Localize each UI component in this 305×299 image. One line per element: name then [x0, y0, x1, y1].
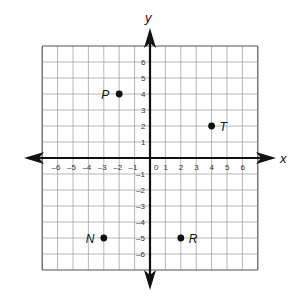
y-tick-label: 4: [141, 90, 146, 99]
y-tick-label: 6: [141, 58, 146, 67]
coordinate-plane: –6–5–4–3–2–10123456–6–5–4–3–2–1123456 PT…: [0, 0, 305, 299]
x-tick-label: 3: [194, 163, 199, 172]
y-tick-label: –1: [136, 170, 145, 179]
y-tick-label: –6: [136, 250, 145, 259]
point-marker: [116, 91, 123, 98]
y-tick-label: 5: [141, 74, 146, 83]
y-tick-label: –2: [136, 186, 145, 195]
point-marker: [100, 235, 107, 242]
x-tick-label: 2: [179, 163, 184, 172]
y-axis-label: y: [144, 10, 153, 25]
x-tick-label: 1: [163, 163, 168, 172]
x-tick-label: –5: [67, 163, 76, 172]
x-tick-label: 5: [225, 163, 230, 172]
x-tick-label: –6: [52, 163, 61, 172]
point-marker: [208, 123, 215, 130]
x-tick-label: 6: [240, 163, 245, 172]
x-tick-label: 4: [210, 163, 215, 172]
y-tick-label: 3: [141, 106, 146, 115]
x-tick-label: –3: [98, 163, 107, 172]
axes: [24, 28, 276, 290]
x-tick-label: –4: [82, 163, 91, 172]
y-tick-label: –4: [136, 218, 145, 227]
y-tick-label: –3: [136, 202, 145, 211]
y-tick-label: 2: [141, 122, 146, 131]
point-marker: [177, 235, 184, 242]
x-axis-label: x: [279, 151, 287, 166]
point-label: N: [86, 232, 95, 246]
x-tick-label: –2: [113, 163, 122, 172]
point-label: R: [189, 232, 198, 246]
point-label: P: [101, 88, 109, 102]
x-tick-label: 0: [154, 163, 159, 172]
y-tick-label: –5: [136, 234, 145, 243]
y-tick-label: 1: [141, 138, 146, 147]
